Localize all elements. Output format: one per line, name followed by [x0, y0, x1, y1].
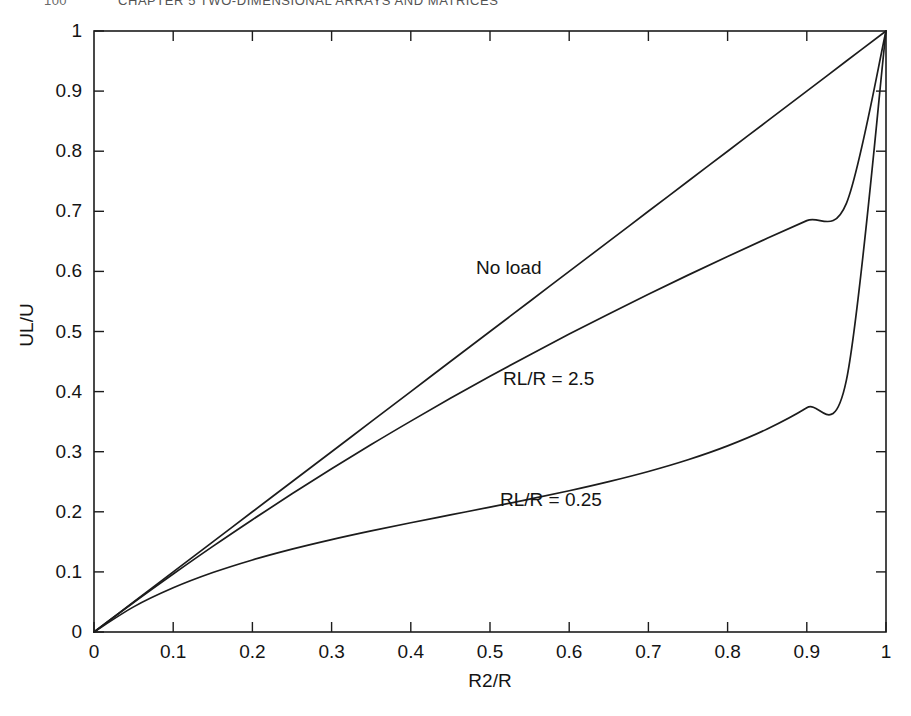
curve-series-0: [94, 31, 886, 632]
xtick-label-3: 0.3: [318, 641, 344, 663]
ytick-label-1: 0.1: [40, 561, 82, 583]
ytick-label-3: 0.3: [40, 441, 82, 463]
ytick-label-9: 0.9: [40, 80, 82, 102]
xtick-label-0: 0: [89, 641, 100, 663]
series-annotation-no-load: No load: [476, 257, 542, 279]
xtick-label-10: 1: [881, 641, 892, 663]
ytick-label-2: 0.2: [40, 501, 82, 523]
y-axis-ticks-right: [876, 91, 886, 572]
series-annotation-rl-r-2-5: RL/R = 2.5: [503, 368, 594, 390]
ytick-label-0: 0: [40, 621, 82, 643]
x-axis-ticks-top: [173, 31, 807, 41]
xtick-label-5: 0.5: [477, 641, 503, 663]
x-axis-ticks: [94, 622, 886, 632]
ytick-label-10: 1: [40, 20, 82, 42]
ytick-label-5: 0.5: [40, 321, 82, 343]
xtick-label-7: 0.7: [635, 641, 661, 663]
chart-plot-svg: [0, 0, 911, 716]
xtick-label-9: 0.9: [794, 641, 820, 663]
chart-figure: 0 0.1 0.2 0.3 0.4 0.5 0.6 0.7 0.8 0.9 1 …: [0, 0, 911, 716]
ytick-label-6: 0.6: [40, 260, 82, 282]
series-annotation-rl-r-0-25: RL/R = 0.25: [500, 489, 602, 511]
ytick-label-4: 0.4: [40, 381, 82, 403]
xtick-label-8: 0.8: [714, 641, 740, 663]
y-axis-title: UL/U: [16, 303, 38, 346]
xtick-label-1: 0.1: [160, 641, 186, 663]
ytick-label-8: 0.8: [40, 140, 82, 162]
xtick-label-6: 0.6: [556, 641, 582, 663]
x-axis-title: R2/R: [468, 670, 511, 692]
xtick-label-2: 0.2: [239, 641, 265, 663]
data-curves-group: [94, 31, 886, 632]
xtick-label-4: 0.4: [398, 641, 424, 663]
ytick-label-7: 0.7: [40, 200, 82, 222]
y-axis-ticks: [94, 31, 104, 632]
